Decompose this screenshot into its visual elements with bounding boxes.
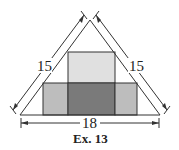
base-arrow-left-icon xyxy=(21,121,28,125)
base-arrow-right-icon xyxy=(152,121,159,125)
triangle-diagram: 15 15 18 Ex. 13 xyxy=(0,0,179,150)
left-arrow-top-icon xyxy=(79,15,84,23)
figure-caption: Ex. 13 xyxy=(73,131,108,146)
right-arrow-top-icon xyxy=(96,15,101,23)
left-medium-rectangle xyxy=(43,83,68,115)
right-medium-rectangle xyxy=(115,83,137,115)
right-side-label: 15 xyxy=(129,58,144,74)
base-label: 18 xyxy=(82,115,97,131)
center-dark-rectangle xyxy=(68,83,115,115)
left-side-label: 15 xyxy=(37,58,52,74)
top-light-rectangle xyxy=(68,52,115,83)
